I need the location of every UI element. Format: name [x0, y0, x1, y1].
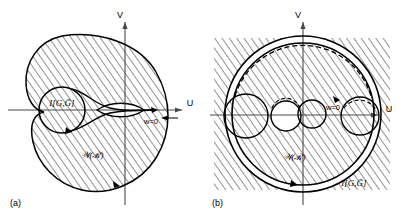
label-interval: I[G,Ḡ] [340, 178, 367, 188]
panel-a-svg: V U w=0 I[G,Ḡ] 𝒲(ℛ) (a) [0, 0, 202, 220]
axis-v-label: V [117, 10, 123, 20]
panel-b: V U w=0 𝒲(ℛ) I[G,Ḡ] (b) [202, 0, 404, 220]
panel-b-svg: V U w=0 𝒲(ℛ) I[G,Ḡ] (b) [202, 0, 404, 220]
panel-b-label: (b) [212, 198, 223, 208]
label-w-r: 𝒲(ℛ) [81, 150, 104, 160]
origin-marker-label: w=0 [325, 103, 340, 112]
axis-u-label: U [187, 98, 194, 108]
axis-v-label: V [295, 10, 301, 20]
axis-u-label: U [386, 104, 393, 114]
label-interval: I[G,Ḡ] [48, 98, 75, 108]
panel-a: V U w=0 I[G,Ḡ] 𝒲(ℛ) (a) [0, 0, 202, 220]
label-w-r: 𝒲(ℛ) [283, 152, 306, 162]
panel-a-label: (a) [10, 198, 21, 208]
figure-container: V U w=0 I[G,Ḡ] 𝒲(ℛ) (a) [0, 0, 404, 220]
origin-marker-label: w=0 [143, 117, 158, 126]
